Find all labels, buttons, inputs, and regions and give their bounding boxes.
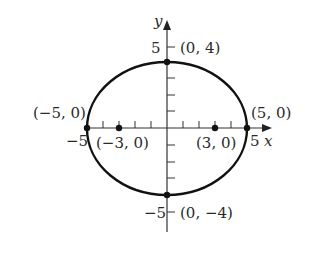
y-tick-label-5: 5 bbox=[151, 39, 161, 57]
point-vertex-right bbox=[244, 125, 250, 131]
label-covertex-bottom: (0, −4) bbox=[180, 204, 233, 222]
point-focus-left bbox=[116, 125, 122, 131]
x-tick-label-neg5: −5 bbox=[66, 132, 88, 150]
point-focus-right bbox=[212, 125, 218, 131]
label-focus-right: (3, 0) bbox=[196, 134, 236, 152]
x-axis-label: x bbox=[264, 132, 273, 150]
label-vertex-left: (−5, 0) bbox=[33, 104, 86, 122]
y-tick-label-neg5: −5 bbox=[144, 204, 166, 222]
x-axis bbox=[84, 121, 272, 132]
x-tick-label-5: 5 bbox=[250, 132, 260, 150]
x-axis-arrow-icon bbox=[262, 124, 272, 132]
label-covertex-top: (0, 4) bbox=[180, 39, 220, 57]
point-covertex-bottom bbox=[164, 192, 170, 198]
ellipse-graph: y x 5 −5 −5 5 (−5, 0) (5, 0) (0, 4) (0, … bbox=[0, 0, 309, 254]
y-axis bbox=[163, 20, 175, 232]
y-axis-label: y bbox=[153, 12, 163, 30]
point-vertex-left bbox=[84, 125, 90, 131]
label-focus-left: (−3, 0) bbox=[96, 134, 149, 152]
label-vertex-right: (5, 0) bbox=[251, 104, 291, 122]
y-axis-arrow-icon bbox=[163, 20, 171, 30]
ellipse-diagram: y x 5 −5 −5 5 (−5, 0) (5, 0) (0, 4) (0, … bbox=[0, 0, 309, 254]
point-covertex-top bbox=[164, 59, 170, 65]
